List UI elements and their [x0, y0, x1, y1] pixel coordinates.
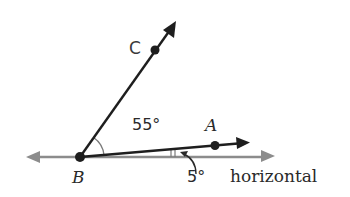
ray-BA	[80, 137, 250, 157]
right-arrowhead-icon	[261, 150, 275, 162]
point-B-label: B	[72, 169, 85, 186]
ray-BA-arrowhead-icon	[236, 137, 250, 149]
angle-55-label: 55°	[132, 117, 160, 133]
point-A-label: A	[205, 117, 217, 134]
left-arrowhead-icon	[26, 151, 40, 163]
ray-BC	[80, 21, 176, 157]
horizontal-label: horizontal	[230, 168, 317, 185]
angle-arc-55	[94, 138, 105, 156]
point-C	[151, 46, 160, 55]
point-C-label: C	[129, 40, 141, 57]
angle-5-label: 5°	[187, 169, 205, 185]
point-A	[211, 141, 220, 150]
point-B	[75, 152, 85, 162]
